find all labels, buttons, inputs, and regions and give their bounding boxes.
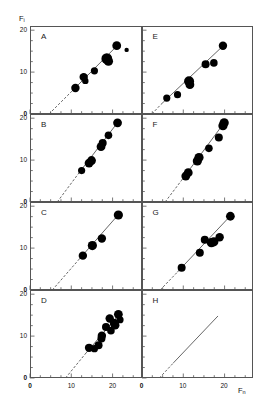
data-point: [195, 249, 203, 257]
panel-g: G: [142, 202, 254, 290]
fit-line-dashed-extension: [57, 174, 78, 202]
x-axis-label: Fn: [238, 386, 246, 395]
panel-f: F: [142, 114, 254, 202]
data-point: [87, 156, 96, 165]
y-tick-label: 10: [6, 156, 27, 163]
data-point: [98, 331, 106, 339]
data-point: [116, 316, 123, 323]
data-point: [210, 59, 218, 67]
panel-plot-area: [142, 26, 254, 114]
data-point: [201, 60, 209, 68]
y-tick-label: 20: [6, 26, 27, 33]
fit-line-dashed-extension: [159, 363, 173, 378]
x-tick-label: 0: [21, 382, 39, 389]
panel-h: H: [142, 290, 254, 378]
panel-e: E: [142, 26, 254, 114]
x-tick-label: 20: [104, 382, 122, 389]
data-point: [183, 168, 192, 177]
data-point: [88, 241, 97, 250]
panel-plot-area: [142, 114, 254, 202]
x-axis-label-sub: n: [243, 389, 246, 395]
panel-plot-area: [30, 114, 142, 202]
data-point: [124, 48, 128, 52]
y-tick-label: 20: [6, 114, 27, 121]
data-point: [104, 57, 113, 66]
data-point: [78, 167, 85, 174]
data-point: [99, 139, 107, 147]
fit-line-dashed-extension: [52, 261, 78, 290]
y-tick-label: 10: [6, 68, 27, 75]
figure-root: Fi Fn ABCDEFGH 01020010200102001020 0102…: [0, 0, 272, 410]
data-point: [177, 264, 185, 272]
x-tick-label: 20: [215, 382, 233, 389]
fit-line-dashed-extension: [165, 180, 182, 202]
x-tick-label: 10: [174, 382, 192, 389]
x-tick-label: 0: [133, 382, 151, 389]
data-point: [114, 210, 123, 219]
fit-line: [160, 44, 224, 104]
panel-plot-area: [30, 26, 142, 114]
data-point: [219, 118, 228, 127]
fit-line-dashed-extension: [49, 92, 71, 114]
data-point: [194, 153, 203, 162]
x-tick-label: 10: [62, 382, 80, 389]
y-tick-label: 0: [6, 374, 27, 381]
data-point: [82, 78, 88, 84]
panel-c: C: [30, 202, 142, 290]
data-point: [91, 67, 98, 74]
y-tick-label: 10: [6, 332, 27, 339]
panel-plot-area: [142, 290, 254, 378]
data-point: [214, 133, 222, 141]
y-axis-label-sub: i: [24, 17, 25, 23]
data-point: [79, 251, 87, 259]
panel-plot-area: [142, 202, 254, 290]
data-point: [71, 84, 79, 92]
data-point: [225, 212, 234, 221]
panel-plot-area: [30, 290, 142, 378]
fit-line-dashed-extension: [151, 104, 160, 114]
data-point: [215, 233, 223, 241]
data-point: [105, 132, 113, 140]
data-point: [98, 234, 106, 242]
data-point: [218, 41, 226, 49]
fit-line: [173, 316, 218, 363]
y-axis-label: Fi: [19, 14, 25, 23]
panel-grid: ABCDEFGH: [30, 26, 253, 378]
panel-d: D: [30, 290, 142, 378]
data-point: [205, 145, 213, 153]
panel-plot-area: [30, 202, 142, 290]
data-point: [112, 41, 121, 50]
panel-a: A: [30, 26, 142, 114]
y-tick-label: 20: [6, 202, 27, 209]
figure-title: [0, 0, 272, 7]
panel-b: B: [30, 114, 142, 202]
data-point: [163, 94, 170, 101]
y-tick-label: 20: [6, 290, 27, 297]
data-point: [185, 80, 194, 89]
y-tick-label: 10: [6, 244, 27, 251]
data-point: [113, 118, 122, 127]
fit-line-dashed-extension: [66, 353, 87, 378]
data-point: [173, 91, 180, 98]
